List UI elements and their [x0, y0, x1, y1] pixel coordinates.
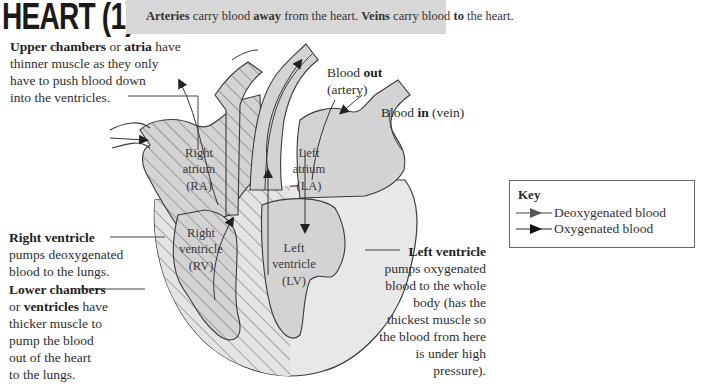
rv-label-line3: (RV): [189, 259, 214, 273]
text-line: pump the blood: [9, 332, 108, 349]
text-line: blood to the lungs.: [9, 263, 123, 280]
text-line: pumps deoxygenated: [9, 246, 123, 263]
text-line: pumps oxygenated: [340, 260, 486, 277]
upper-chambers-label: Upper chambers or atria have thinner mus…: [10, 38, 181, 106]
legend-key: Key Deoxygenated blood Oxygenated blood: [509, 180, 695, 248]
text: or: [9, 299, 24, 314]
rv-label-line2: ventricle: [179, 242, 223, 256]
lv-label-line1: Left: [284, 241, 305, 255]
bold-text: out: [363, 65, 382, 80]
text-line: thinner muscle as they only: [10, 55, 181, 72]
text: Blood: [381, 105, 417, 120]
text-line: thicker muscle to: [9, 315, 108, 332]
text-line: (artery): [327, 81, 382, 98]
text: have: [152, 39, 181, 54]
text-line: is under high: [340, 345, 486, 362]
arrow-black-icon: [516, 223, 552, 235]
la-label-line1: Left: [299, 146, 320, 160]
text: have: [79, 299, 108, 314]
bold-text: in: [417, 105, 428, 120]
rv-label-line1: Right: [187, 226, 215, 240]
bold-text: Upper chambers: [10, 39, 106, 54]
text-line: pressure).: [340, 362, 486, 379]
text-line: out of the heart: [9, 349, 108, 366]
lower-chambers-label: Lower chambers or ventricles have thicke…: [9, 281, 108, 383]
ra-label-line1: Right: [185, 146, 213, 160]
ra-label-line2: atrium: [183, 162, 216, 176]
bold-text: Left ventricle: [408, 244, 486, 259]
text-line: have to push blood down: [10, 72, 181, 89]
bold-text: Lower chambers: [9, 282, 106, 297]
la-label-line3: (LA): [297, 179, 322, 193]
ra-label-line3: (RA): [186, 179, 212, 193]
blood-in-label: Blood in (vein): [381, 104, 464, 121]
bold-text: atria: [124, 39, 152, 54]
legend-item-deoxygenated: Deoxygenated blood: [516, 205, 666, 221]
text-line: the blood from here: [340, 328, 486, 345]
bold-text: ventricles: [24, 299, 79, 314]
legend-label: Oxygenated blood: [554, 221, 653, 237]
text: Blood: [327, 65, 363, 80]
lv-label-line3: (LV): [282, 274, 306, 288]
text-line: to the lungs.: [9, 366, 108, 383]
left-ventricle-label: Left ventricle pumps oxygenated blood to…: [340, 243, 486, 379]
legend-item-oxygenated: Oxygenated blood: [516, 221, 653, 237]
text: (vein): [429, 105, 465, 120]
arrow-dark-gray-icon: [516, 207, 552, 219]
text-line: thickest muscle so: [340, 311, 486, 328]
lv-label-line2: ventricle: [272, 257, 316, 271]
legend-title: Key: [518, 187, 540, 203]
legend-label: Deoxygenated blood: [554, 205, 666, 221]
right-ventricle-label: Right ventricle pumps deoxygenated blood…: [9, 229, 123, 280]
text-line: into the ventricles.: [10, 89, 181, 106]
text-line: blood to the whole: [340, 277, 486, 294]
la-label-line2: atrium: [293, 162, 326, 176]
bold-text: Right ventricle: [9, 230, 95, 245]
text-line: body (has the: [340, 294, 486, 311]
text: or: [106, 39, 124, 54]
blood-out-label: Blood out (artery): [327, 64, 382, 98]
